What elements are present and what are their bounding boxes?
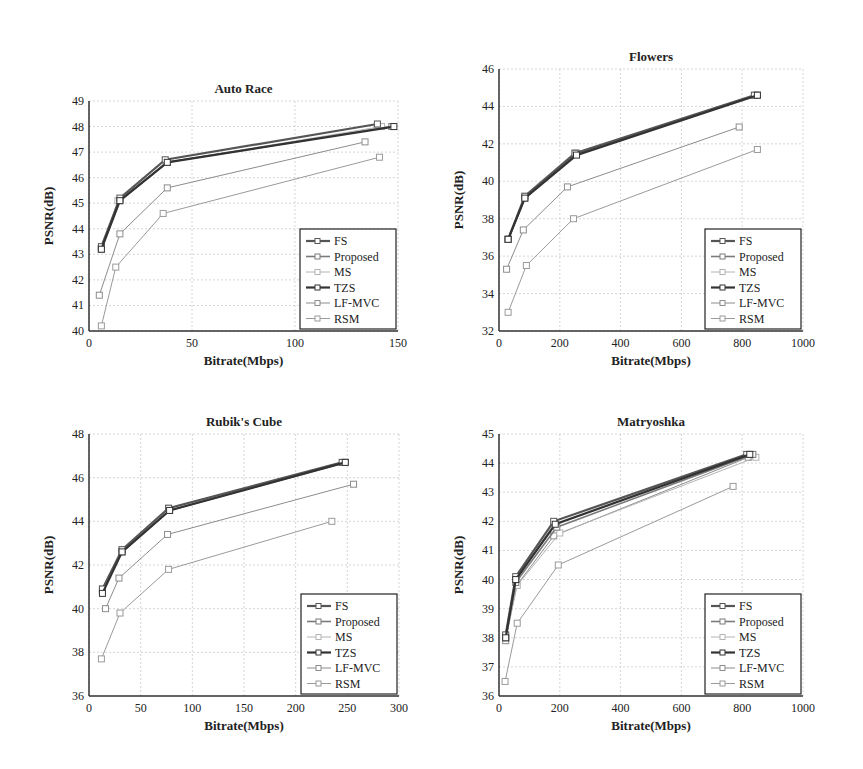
y-tick-label: 40 [72,324,84,338]
legend-entry: TZS [739,281,760,295]
y-tick-label: 40 [72,602,84,616]
data-point-marker [736,124,742,130]
legend-entry: LF-MVC [335,661,380,675]
chart-title: Matryoshka [617,414,685,429]
data-point-marker [329,518,335,524]
legend-entry: LF-MVC [334,296,379,310]
x-axis-label: Bitrate(Mbps) [204,718,283,733]
data-point-marker [555,562,561,568]
x-tick-label: 200 [551,336,569,350]
data-point-marker [160,210,166,216]
series-rsm [502,483,736,684]
chart-svg: Matryoshka020040060080010003637383940414… [430,385,863,769]
legend-entry: RSM [739,677,765,691]
x-tick-label: 400 [612,701,630,715]
chart-title: Flowers [629,49,673,64]
y-tick-label: 44 [72,222,84,236]
data-point-marker [574,152,580,158]
data-point-marker [570,216,576,222]
data-point-marker [557,530,563,536]
data-point-marker [98,323,104,329]
y-tick-label: 44 [482,456,494,470]
x-tick-label: 150 [389,336,407,350]
data-point-marker [376,154,382,160]
x-tick-label: 1000 [791,701,815,715]
legend-entry: TZS [739,646,760,660]
x-tick-label: 800 [733,336,751,350]
series-proposed [505,92,760,242]
y-tick-label: 49 [72,94,84,108]
y-tick-label: 36 [482,689,494,703]
y-axis-label: PSNR(dB) [41,536,56,595]
x-tick-label: 600 [672,336,690,350]
data-point-marker [391,124,397,130]
data-point-marker [505,309,511,315]
chart-title: Rubik's Cube [206,414,282,429]
data-point-marker [754,146,760,152]
x-tick-label: 50 [135,701,147,715]
y-tick-label: 40 [482,573,494,587]
y-tick-label: 42 [482,137,494,151]
x-tick-label: 800 [733,701,751,715]
data-point-marker [164,159,170,165]
legend-entry: Proposed [335,615,380,629]
chart-svg: Rubik's Cube0501001502002503003638404244… [0,385,430,769]
y-tick-label: 46 [482,62,494,76]
legend-entry: MS [739,265,756,279]
data-point-marker [351,481,357,487]
y-tick-label: 46 [72,171,84,185]
legend-entry: Proposed [739,615,784,629]
y-tick-label: 48 [72,120,84,134]
x-tick-label: 300 [390,701,408,715]
data-point-marker [552,521,558,527]
y-tick-label: 42 [72,558,84,572]
data-point-marker [117,231,123,237]
legend-entry: MS [335,630,352,644]
x-tick-label: 400 [612,336,630,350]
legend: FSProposedMSTZSLF-MVCRSM [705,229,801,329]
data-point-marker [520,227,526,233]
x-tick-label: 0 [86,336,92,350]
data-point-marker [167,507,173,513]
legend-entry: Proposed [739,250,784,264]
data-point-marker [116,575,122,581]
y-tick-label: 38 [72,645,84,659]
y-tick-label: 38 [482,212,494,226]
y-tick-label: 44 [482,99,494,113]
y-tick-label: 45 [72,196,84,210]
data-point-marker [523,263,529,269]
data-point-marker [99,590,105,596]
legend: FSProposedMSTZSLF-MVCRSM [705,594,801,694]
y-tick-label: 48 [72,427,84,441]
data-point-marker [117,198,123,204]
x-axis-label: Bitrate(Mbps) [611,718,690,733]
legend: FSProposedMSTZSLF-MVCRSM [301,594,397,694]
chart-matryoshka: Matryoshka020040060080010003637383940414… [430,385,863,769]
y-tick-label: 37 [482,660,494,674]
data-point-marker [522,195,528,201]
y-tick-label: 43 [72,247,84,261]
y-tick-label: 36 [482,249,494,263]
legend-entry: TZS [335,646,356,660]
x-axis-label: Bitrate(Mbps) [204,353,283,368]
legend-entry: TZS [334,281,355,295]
legend-entry: RSM [335,677,361,691]
data-point-marker [513,577,519,583]
data-point-marker [165,531,171,537]
y-axis-label: PSNR(dB) [451,536,466,595]
x-axis-label: Bitrate(Mbps) [611,353,690,368]
chart-auto-race: Auto Race05010015040414243444546474849Bi… [0,0,430,385]
data-point-marker [103,606,109,612]
chart-rubiks-cube: Rubik's Cube0501001502002503003638404244… [0,385,430,769]
x-tick-label: 200 [287,701,305,715]
chart-flowers: Flowers020040060080010003234363840424446… [430,0,863,385]
data-point-marker [98,656,104,662]
chart-title: Auto Race [214,81,272,96]
series-ms [505,92,759,242]
data-point-marker [514,620,520,626]
series-proposed [99,459,348,594]
x-tick-label: 250 [338,701,356,715]
series-fs [505,92,757,242]
data-point-marker [164,185,170,191]
x-tick-label: 100 [183,701,201,715]
